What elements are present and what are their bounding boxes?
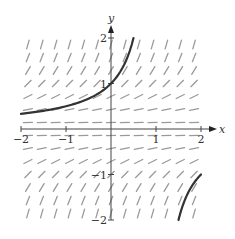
slope-mark [137, 196, 140, 204]
slope-mark [52, 159, 60, 163]
x-tick-label: −2 [13, 133, 29, 146]
slope-mark [120, 148, 129, 150]
slope-mark [95, 196, 98, 204]
y-tick-label: −2 [91, 214, 107, 227]
slope-mark [26, 196, 29, 204]
slope-mark [39, 184, 44, 192]
slope-mark [25, 171, 31, 177]
slope-mark [95, 53, 98, 61]
slope-mark [25, 80, 31, 86]
slope-mark [67, 184, 72, 192]
slope-mark [38, 159, 46, 163]
slope-mark [65, 148, 74, 150]
slope-mark [65, 94, 73, 98]
slope-mark [39, 80, 45, 86]
slope-mark [93, 148, 102, 150]
slope-mark [24, 159, 32, 163]
slope-field-diagram: x y −2−112 21−1−2 [0, 0, 235, 239]
slope-mark [151, 209, 154, 218]
slope-mark [54, 209, 57, 218]
slope-mark [79, 159, 87, 163]
slope-mark [176, 148, 185, 150]
slope-mark [165, 40, 168, 49]
slope-mark [162, 148, 171, 150]
slope-mark [53, 67, 58, 75]
slope-mark [177, 80, 183, 86]
slope-mark [38, 94, 46, 98]
slope-mark [123, 184, 128, 192]
slope-mark [165, 53, 168, 61]
slope-mark [151, 196, 154, 204]
slope-mark [136, 80, 142, 86]
slope-mark [179, 196, 182, 204]
slope-mark [135, 94, 143, 98]
slope-mark [164, 67, 169, 75]
slope-mark [37, 148, 46, 150]
slope-mark [41, 209, 44, 218]
slope-mark [134, 109, 143, 111]
slope-mark [151, 40, 154, 49]
slope-mark [52, 171, 58, 177]
slope-mark [136, 67, 141, 75]
slope-mark [193, 40, 196, 49]
slope-mark [82, 209, 85, 218]
slope-mark [137, 209, 140, 218]
slope-mark [39, 171, 45, 177]
slope-mark [51, 148, 60, 150]
slope-mark [26, 67, 31, 75]
slope-mark [136, 184, 141, 192]
slope-mark [124, 40, 127, 49]
slope-mark [165, 209, 168, 218]
slope-mark [68, 209, 71, 218]
slope-mark [39, 67, 44, 75]
x-tick-label: 2 [198, 133, 205, 146]
slope-mark [96, 40, 99, 49]
slope-mark [52, 80, 58, 86]
slope-mark [54, 53, 57, 61]
slope-mark [179, 53, 182, 61]
slope-mark [27, 209, 30, 218]
slope-mark [68, 40, 71, 49]
slope-mark [95, 184, 100, 192]
slope-mark [54, 40, 57, 49]
slope-mark [134, 148, 143, 150]
slope-mark [52, 94, 60, 98]
slope-mark [192, 67, 197, 75]
slope-mark [121, 159, 129, 163]
slope-mark [23, 109, 32, 111]
slope-mark [121, 94, 129, 98]
slope-mark [26, 184, 31, 192]
slope-mark [135, 159, 143, 163]
slope-mark [162, 159, 170, 163]
slope-mark [149, 159, 157, 163]
slope-mark [67, 67, 72, 75]
slope-mark [149, 171, 155, 177]
slope-mark [80, 80, 86, 86]
slope-mark [192, 196, 195, 204]
slope-mark [177, 171, 183, 177]
slope-mark [190, 109, 199, 111]
slope-mark [148, 109, 157, 111]
slope-mark [178, 67, 183, 75]
slope-mark [27, 40, 30, 49]
slope-mark [162, 94, 170, 98]
slope-mark [179, 40, 182, 49]
slope-mark [23, 148, 32, 150]
slope-mark [163, 80, 169, 86]
slope-mark [176, 109, 185, 111]
slope-mark [148, 148, 157, 150]
slope-mark [136, 171, 142, 177]
slope-mark [82, 53, 85, 61]
slope-mark [149, 94, 157, 98]
slope-mark [120, 109, 129, 111]
slope-mark [151, 53, 154, 61]
slope-mark [190, 159, 198, 163]
slope-mark [54, 196, 57, 204]
slope-mark [65, 109, 74, 111]
slope-mark [80, 171, 86, 177]
slope-mark [123, 196, 126, 204]
slope-mark [93, 159, 101, 163]
slope-mark [68, 53, 71, 61]
slope-mark [124, 209, 127, 218]
slope-mark [191, 171, 197, 177]
